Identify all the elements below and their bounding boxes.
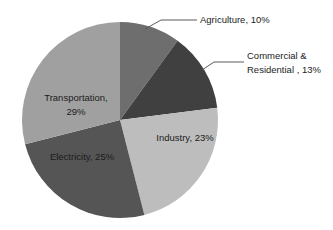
pie-slices bbox=[22, 22, 218, 218]
pie-label-transportation-line1: Transportation, bbox=[44, 92, 108, 103]
pie-chart: Agriculture, 10% Commercial & Residentia… bbox=[0, 0, 333, 230]
pie-label-commercial-residential-line1: Commercial & bbox=[247, 50, 307, 61]
pie-chart-canvas: Agriculture, 10% Commercial & Residentia… bbox=[0, 0, 333, 230]
pie-label-transportation-line2: 29% bbox=[66, 106, 86, 117]
pie-label-agriculture: Agriculture, 10% bbox=[200, 14, 270, 25]
pie-label-commercial-residential-line2: Residential , 13% bbox=[247, 64, 321, 75]
pie-label-industry: Industry, 23% bbox=[156, 132, 214, 143]
pie-label-electricity: Electricity, 25% bbox=[50, 151, 115, 162]
leader-line-commercial-residential bbox=[202, 62, 244, 70]
leader-line-agriculture bbox=[145, 20, 197, 29]
